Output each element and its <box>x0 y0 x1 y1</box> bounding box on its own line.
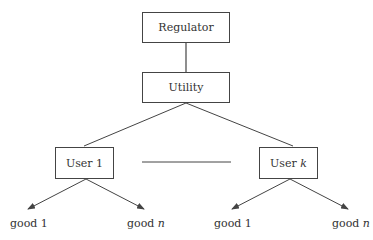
leaf-userk-good-1: good 1 <box>214 217 252 230</box>
user-k-label: User k <box>270 157 307 170</box>
user-1-node: User 1 <box>55 147 114 179</box>
regulator-node: Regulator <box>142 12 230 43</box>
leaf-user1-good-1: good 1 <box>10 217 48 230</box>
utility-node: Utility <box>142 72 230 103</box>
user-1-label: User 1 <box>66 157 103 170</box>
arrow-user1-goodn <box>86 179 144 209</box>
regulator-label: Regulator <box>158 21 213 34</box>
utility-label: Utility <box>169 81 204 94</box>
arrow-user1-good1 <box>28 179 86 209</box>
leaf-userk-good-n: good n <box>332 217 370 230</box>
arrow-userk-good1 <box>232 179 290 209</box>
edge-utility-userk <box>186 103 293 146</box>
user-k-node: User k <box>259 147 318 179</box>
edge-utility-user1 <box>84 103 186 146</box>
arrow-userk-goodn <box>290 179 348 209</box>
leaf-user1-good-n: good n <box>127 217 165 230</box>
